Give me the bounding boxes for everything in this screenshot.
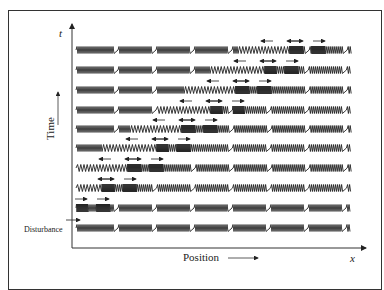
spring-row [76, 46, 351, 54]
spring-row [76, 225, 350, 232]
spring-row [76, 106, 350, 114]
spring-row [76, 125, 351, 133]
time-label: Time [44, 117, 56, 140]
spring-row [76, 86, 351, 94]
t-axis-symbol: t [59, 27, 62, 39]
spring-row [76, 184, 351, 192]
spring-row [76, 66, 350, 74]
spring-rows [66, 41, 351, 232]
spring-row [76, 144, 350, 152]
x-axis-symbol: x [350, 252, 355, 264]
position-label: Position [183, 251, 219, 263]
disturbance-label: Disturbance [24, 225, 63, 234]
spring-row [76, 204, 350, 212]
spring-row [76, 164, 351, 172]
